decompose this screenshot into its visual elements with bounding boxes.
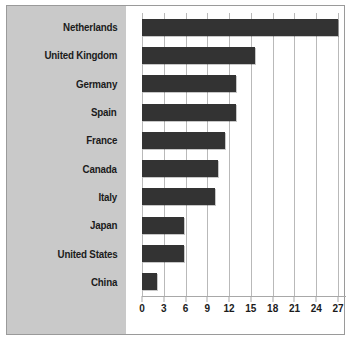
category-label-list: NetherlandsUnited KingdomGermanySpainFra… [7, 13, 126, 296]
bar-row [142, 239, 338, 267]
category-label-row: United Kingdom [7, 41, 126, 69]
x-axis-tick-label: 27 [332, 303, 343, 314]
category-label-row: Netherlands [7, 13, 126, 41]
category-label: United States [57, 248, 117, 260]
gridline [338, 13, 339, 296]
bar-row [142, 154, 338, 182]
x-axis-tick-label: 0 [139, 303, 145, 314]
bar [142, 217, 184, 234]
category-label: Germany [76, 78, 117, 90]
category-label: United Kingdom [44, 49, 117, 61]
bar-row [142, 268, 338, 296]
x-axis-tick-label: 6 [183, 303, 189, 314]
bar-row [142, 211, 338, 239]
x-axis-tick-mark [229, 296, 230, 302]
category-label-row: France [7, 126, 126, 154]
category-label-row: Germany [7, 70, 126, 98]
category-label: Japan [90, 219, 117, 231]
x-axis-tick-mark [316, 296, 317, 302]
bar [142, 245, 184, 262]
category-label-row: Spain [7, 98, 126, 126]
x-axis-tick-mark [185, 296, 186, 302]
x-axis-tick-mark [250, 296, 251, 302]
x-axis-tick-mark [207, 296, 208, 302]
bar [142, 47, 255, 64]
plot-inner [142, 13, 338, 296]
x-axis-tick-mark [338, 296, 339, 302]
bar-series [142, 13, 338, 296]
category-label: France [86, 134, 117, 146]
bar-chart-figure: NetherlandsUnited KingdomGermanySpainFra… [6, 5, 345, 335]
x-axis-tick-labels: 0369121518212427 [126, 303, 346, 323]
category-label: Canada [83, 163, 117, 175]
bar-row [142, 98, 338, 126]
bar-row [142, 70, 338, 98]
x-axis-tick-label: 18 [267, 303, 278, 314]
bar [142, 273, 157, 290]
category-label-row: Canada [7, 154, 126, 182]
bar [142, 104, 236, 121]
category-label: Italy [98, 191, 117, 203]
bar-row [142, 126, 338, 154]
category-label: Spain [91, 106, 117, 118]
bar [142, 188, 215, 205]
bar [142, 132, 225, 149]
bar [142, 160, 218, 177]
bar [142, 75, 236, 92]
x-axis-tick-label: 15 [245, 303, 256, 314]
category-label-row: United States [7, 239, 126, 267]
x-axis-tick-mark [142, 296, 143, 302]
category-label: Netherlands [63, 21, 117, 33]
plot-area [126, 6, 344, 334]
category-label: China [91, 276, 117, 288]
bar-row [142, 41, 338, 69]
x-axis-tick-label: 3 [161, 303, 167, 314]
category-label-row: Italy [7, 183, 126, 211]
bar-row [142, 13, 338, 41]
bar [142, 19, 338, 36]
bar-row [142, 183, 338, 211]
x-axis-tick-mark [294, 296, 295, 302]
x-axis-tick-label: 12 [224, 303, 235, 314]
category-label-row: Japan [7, 211, 126, 239]
x-axis-tick-label: 9 [205, 303, 211, 314]
x-axis-tick-mark [272, 296, 273, 302]
x-axis-tick-label: 21 [289, 303, 300, 314]
x-axis-tick-mark [163, 296, 164, 302]
x-axis-tick-label: 24 [311, 303, 322, 314]
category-label-panel: NetherlandsUnited KingdomGermanySpainFra… [7, 6, 126, 334]
category-label-row: China [7, 268, 126, 296]
